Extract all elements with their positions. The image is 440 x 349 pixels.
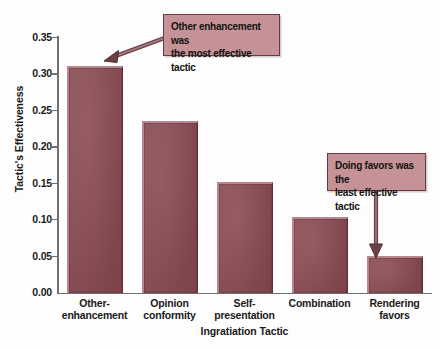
- bar: [217, 182, 273, 293]
- x-tick-label-line: presentation: [207, 310, 282, 322]
- callout-line: least effective tactic: [335, 186, 418, 213]
- x-tick-label: Renderingfavors: [357, 298, 432, 321]
- x-axis-title: Ingratiation Tactic: [57, 325, 432, 337]
- x-tick-label-line: Rendering: [357, 298, 432, 310]
- bar: [367, 256, 423, 293]
- x-tick-label: Opinionconformity: [132, 298, 207, 321]
- callout-least-effective: Doing favors was the least effective tac…: [327, 153, 426, 191]
- x-tick-label-line: favors: [357, 310, 432, 322]
- bar: [67, 66, 123, 292]
- x-tick-label-line: Other-: [57, 298, 132, 310]
- callout-most-effective: Other enhancement was the most effective…: [163, 14, 280, 56]
- x-tick-label-line: Self-: [207, 298, 282, 310]
- x-tick-label-line: Opinion: [132, 298, 207, 310]
- callout-line: the most effective tactic: [171, 47, 272, 74]
- bar: [292, 217, 348, 292]
- x-tick-label: Combination: [282, 298, 357, 310]
- x-tick-label-line: enhancement: [57, 310, 132, 322]
- x-tick-label: Other-enhancement: [57, 298, 132, 321]
- bar-chart: Tactic's Effectiveness 0.35 0.30 0.25 0.…: [0, 0, 440, 349]
- x-tick-label-line: conformity: [132, 310, 207, 322]
- x-tick-label: Self-presentation: [207, 298, 282, 321]
- x-tick-label-line: Combination: [282, 298, 357, 310]
- callout-line: Doing favors was the: [335, 159, 418, 186]
- callout-line: Other enhancement was: [171, 20, 272, 47]
- bar: [142, 121, 198, 293]
